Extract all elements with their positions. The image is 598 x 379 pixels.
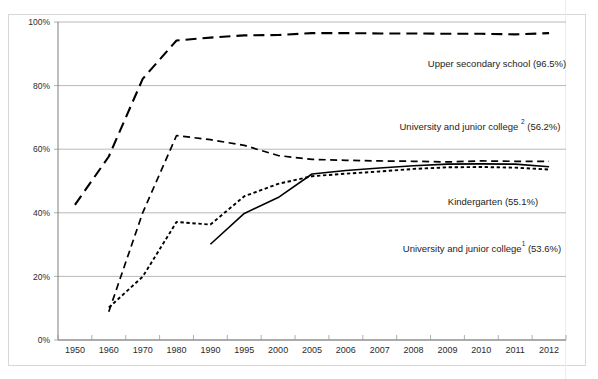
x-tick-label: 1960 [99, 345, 119, 355]
y-tick-label: 0% [38, 335, 51, 345]
x-tick-label: 2007 [370, 345, 390, 355]
y-tick-label: 20% [33, 272, 50, 282]
series-annotation-label: University and junior college 2 (56.2%) [400, 118, 561, 133]
series-line [109, 167, 549, 308]
x-tick-label: 1980 [167, 345, 187, 355]
series-annotation-label: University and junior college1 (53.6%) [403, 240, 561, 255]
series-annotation-label: Upper secondary school (96.5%) [428, 58, 566, 69]
x-axis-tick-labels: 1950196019701980199019952000200520062007… [65, 345, 559, 355]
x-tick-label: 2005 [302, 345, 322, 355]
axes-group [58, 22, 566, 340]
y-axis-tick-labels: 0%20%40%60%80%100% [28, 17, 50, 345]
x-tick-label: 1990 [200, 345, 220, 355]
chart-container: 0%20%40%60%80%100% 195019601970198019901… [0, 0, 598, 379]
y-tick-label: 40% [33, 208, 50, 218]
x-tick-label: 2008 [404, 345, 424, 355]
x-tick-label: 1970 [133, 345, 153, 355]
y-tick-label: 80% [33, 81, 50, 91]
x-tick-label: 1950 [65, 345, 85, 355]
data-series-group [75, 33, 549, 312]
x-tick-label: 2012 [539, 345, 559, 355]
x-tick-label: 2010 [471, 345, 491, 355]
series-line [109, 136, 549, 312]
series-annotation-label: Kindergarten (55.1%) [448, 196, 538, 207]
x-axis-tick-marks [58, 335, 566, 340]
x-tick-label: 2000 [268, 345, 288, 355]
line-chart-plot: 0%20%40%60%80%100% 195019601970198019901… [0, 0, 598, 379]
x-tick-label: 2009 [437, 345, 457, 355]
series-annotations-group: Upper secondary school (96.5%)University… [400, 58, 567, 254]
x-tick-label: 1995 [234, 345, 254, 355]
gridlines-group [54, 22, 566, 340]
y-tick-label: 60% [33, 144, 50, 154]
x-tick-label: 2006 [336, 345, 356, 355]
y-tick-label: 100% [28, 17, 50, 27]
x-tick-label: 2011 [506, 345, 525, 355]
